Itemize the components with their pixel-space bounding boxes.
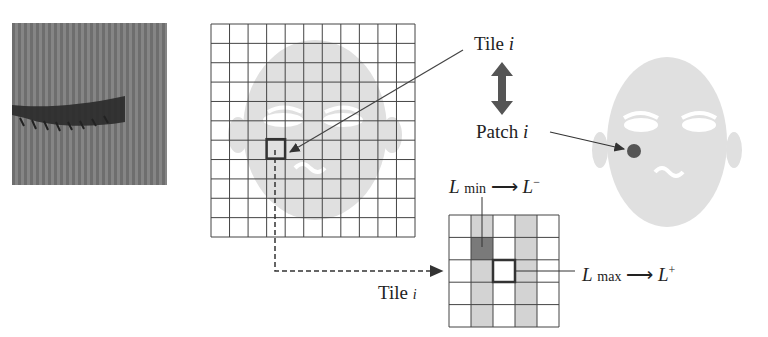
tile-label-bottom: Tile i — [378, 282, 417, 304]
patch-dot — [627, 144, 641, 158]
l-max-label: L max ⟶ L+ — [582, 263, 675, 286]
patch-label: Patch i — [476, 121, 528, 143]
l-min-label: L min ⟶ L− — [449, 175, 540, 198]
double-arrow-icon — [491, 62, 513, 115]
right-face — [592, 57, 742, 227]
max-cell — [493, 260, 515, 282]
eye-patch-image — [12, 23, 167, 185]
large-face — [228, 40, 402, 220]
tile-label-top: Tile i — [474, 33, 514, 55]
